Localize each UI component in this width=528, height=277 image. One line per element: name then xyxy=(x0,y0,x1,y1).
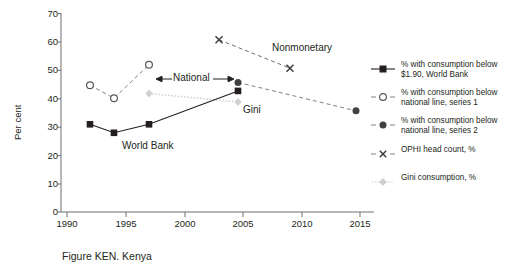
annotation-world-bank: World Bank xyxy=(122,140,174,151)
legend-label-line1: % with consumption below xyxy=(401,88,497,98)
cross-x-icon xyxy=(370,148,396,160)
legend-item-gini-consumption[interactable]: Gini consumption, % xyxy=(370,175,528,189)
series-world-bank-190 xyxy=(87,88,242,137)
legend-item-national-series-2[interactable]: % with consumption below national line, … xyxy=(370,118,528,140)
legend-label-line1: % with consumption below xyxy=(401,116,497,126)
x-axis-ticks xyxy=(67,212,360,217)
legend-label-line2: national line, series 2 xyxy=(401,126,478,136)
legend-item-national-series-1[interactable]: % with consumption below national line, … xyxy=(370,90,528,112)
y-axis-ticks xyxy=(57,14,61,213)
filled-square-icon xyxy=(370,63,396,75)
open-circle-icon xyxy=(370,91,396,103)
legend-item-world-bank[interactable]: % with consumption below $1.90, World Ba… xyxy=(370,62,528,84)
plot-area xyxy=(0,0,400,235)
annotation-national: National xyxy=(173,72,210,83)
light-diamond-icon xyxy=(370,176,396,188)
figure-kenya: Per cent 70 60 50 40 30 20 10 0 1990 199… xyxy=(0,0,528,277)
annotation-nonmonetary: Nonmonetary xyxy=(272,42,332,53)
series-national-line-1 xyxy=(87,61,153,101)
legend-label-line2: national line, series 1 xyxy=(401,98,478,108)
legend-label-line1: Gini consumption, % xyxy=(401,173,476,183)
legend-label-line2: $1.90, World Bank xyxy=(401,70,468,80)
figure-caption: Figure KEN. Kenya xyxy=(62,250,152,262)
legend-label-line1: % with consumption below xyxy=(401,60,497,70)
annotation-gini: Gini xyxy=(243,104,261,115)
legend-label-line1: OPHI head count, % xyxy=(401,145,476,155)
series-gini-consumption xyxy=(145,90,241,107)
legend-item-ophi-head-count[interactable]: OPHI head count, % xyxy=(370,147,528,161)
filled-circle-icon xyxy=(370,119,396,131)
